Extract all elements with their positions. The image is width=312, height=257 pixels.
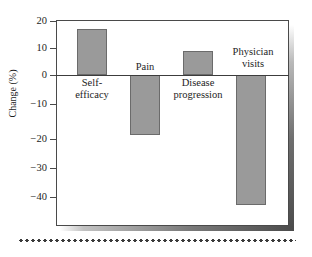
category-label-line: Self-: [62, 77, 122, 89]
bar-self-efficacy: [77, 29, 107, 75]
y-tick-label: 20: [5, 16, 47, 27]
category-label-line: efficacy: [62, 89, 122, 101]
category-label-line: visits: [222, 58, 284, 70]
zero-baseline: [56, 75, 289, 76]
y-tick-label: −30: [5, 163, 47, 174]
frame-drop-shadow-bottom: [60, 226, 294, 231]
category-label-self-efficacy: Self- efficacy: [62, 77, 122, 100]
category-label-line: Pain: [115, 61, 175, 73]
bar-chart-figure: Change (%) 20 10 0 −10 −20 −30 −40 Self-…: [0, 0, 312, 257]
category-label-physician-visits: Physician visits: [222, 46, 284, 69]
y-tick-mark: [50, 104, 56, 105]
y-tick-mark: [50, 139, 56, 140]
bar-physician-visits: [236, 75, 266, 205]
y-tick-label: −40: [5, 192, 47, 203]
category-label-line: Physician: [222, 46, 284, 58]
dotted-rule: [18, 239, 296, 242]
bar-disease-progression: [183, 51, 213, 75]
y-tick-label: −10: [5, 99, 47, 110]
category-label-pain: Pain: [115, 61, 175, 73]
y-tick-mark: [50, 21, 56, 22]
category-label-disease-progression: Disease progression: [160, 77, 236, 100]
y-axis-line: [56, 20, 57, 226]
frame-drop-shadow-right: [289, 25, 294, 231]
y-tick-label: 0: [5, 70, 47, 81]
category-label-line: Disease: [160, 77, 236, 89]
y-tick-label: −20: [5, 134, 47, 145]
category-label-line: progression: [160, 89, 236, 101]
y-tick-label: 10: [5, 43, 47, 54]
y-tick-mark: [50, 48, 56, 49]
bar-pain: [130, 75, 160, 135]
y-tick-mark: [50, 168, 56, 169]
y-tick-mark: [50, 197, 56, 198]
